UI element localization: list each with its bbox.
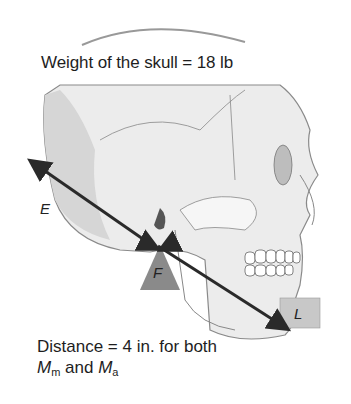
moment-m-symbol: M bbox=[37, 358, 51, 377]
effort-label: E bbox=[40, 200, 50, 217]
caption-line-2: Mm and Ma bbox=[37, 357, 217, 383]
load-label: L bbox=[294, 305, 302, 322]
caption-line-1: Distance = 4 in. for both bbox=[37, 336, 217, 357]
fulcrum-label: F bbox=[153, 264, 162, 281]
skull-weight-title: Weight of the skull = 18 lb bbox=[41, 53, 233, 73]
moment-a-symbol: M bbox=[98, 358, 112, 377]
moment-m-subscript: m bbox=[51, 366, 60, 378]
and-text: and bbox=[60, 358, 98, 377]
moment-a-subscript: a bbox=[112, 366, 118, 378]
skull-lever-diagram: Weight of the skull = 18 lb E F L Distan… bbox=[0, 0, 351, 404]
distance-caption: Distance = 4 in. for both Mm and Ma bbox=[37, 336, 217, 383]
